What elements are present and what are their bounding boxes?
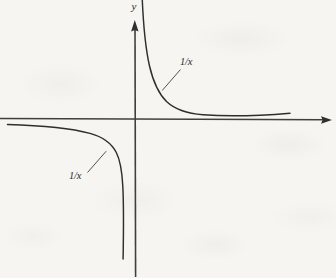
y-axis-line [135,26,136,277]
y-axis-arrowhead [131,20,138,32]
figure-canvas: y 1/x 1/x [0,0,336,278]
curve-right-branch [142,0,290,116]
lower-curve-annotation-label: 1/x [69,170,81,182]
x-axis-arrowhead [321,116,332,124]
y-axis-label: y [126,0,142,13]
x-axis-line [0,119,326,120]
lower-annotation-leader-line [88,151,107,172]
curve-left-branch [8,125,124,260]
upper-curve-annotation-label: 1/x [180,56,192,68]
y-axis [131,20,138,277]
reciprocal-function-plot [0,0,336,278]
upper-annotation-leader-line [162,70,180,91]
x-axis [0,116,332,124]
